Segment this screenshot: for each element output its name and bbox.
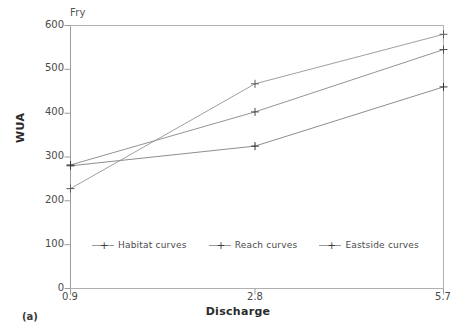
- legend-label: Habitat curves: [118, 240, 187, 250]
- legend-item-eastside-curves: + Eastside curves: [319, 240, 419, 250]
- plot-canvas: [0, 0, 476, 334]
- legend-label: Reach curves: [235, 240, 298, 250]
- series-eastside-curves: [67, 46, 448, 169]
- legend-marker-plus-icon: +: [92, 241, 114, 250]
- legend-item-reach-curves: + Reach curves: [209, 240, 298, 250]
- y-tick-marks: [65, 26, 71, 289]
- legend-marker-plus-icon: +: [209, 241, 231, 250]
- x-tick-marks: [71, 289, 444, 295]
- figure-panel-a: Fry WUA Discharge (a) 600 500 400 300 20…: [0, 0, 476, 334]
- legend-label: Eastside curves: [345, 240, 419, 250]
- chart-legend: + Habitat curves + Reach curves + Eastsi…: [92, 240, 419, 250]
- legend-marker-plus-icon: +: [319, 241, 341, 250]
- legend-item-habitat-curves: + Habitat curves: [92, 240, 187, 250]
- series-habitat-curves: [67, 83, 448, 170]
